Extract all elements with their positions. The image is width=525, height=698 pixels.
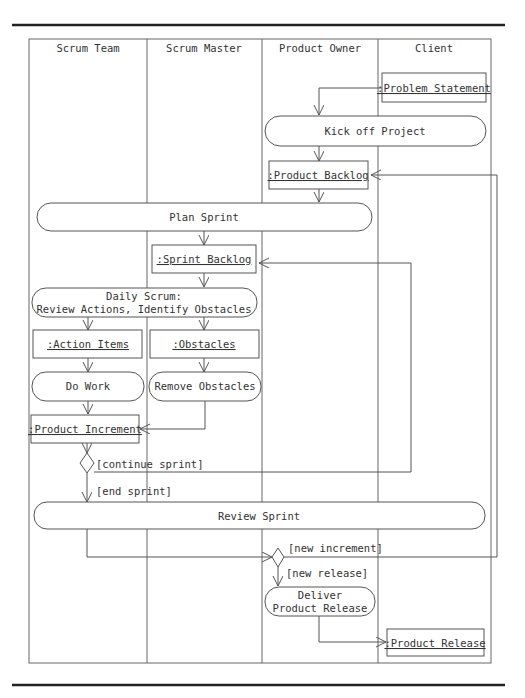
svg-text:Review Actions, Identify Obsta: Review Actions, Identify Obstacles [37,303,252,315]
lane-header-scrum-team: Scrum Team [56,42,119,54]
guard-continue-sprint: [continue sprint] [96,458,203,470]
flow-deliver-to-release [319,616,386,642]
svg-text:Do Work: Do Work [66,380,111,392]
activity-plan-sprint: Plan Sprint [37,203,372,231]
guard-end-sprint: [end sprint] [96,485,172,497]
activity-diagram: Scrum Team Scrum Master Product Owner Cl… [0,0,525,698]
decision-release [272,548,284,567]
svg-text:Remove Obstacles: Remove Obstacles [154,380,255,392]
object-action-items: :Action Items [33,330,142,358]
activity-daily-scrum: Daily Scrum: Review Actions, Identify Ob… [32,288,257,317]
flow-review-to-decision [87,529,272,557]
object-product-increment: :Product Increment [28,415,142,443]
activity-kick-off-project: Kick off Project [265,116,486,146]
guard-new-increment: [new increment] [288,542,383,554]
activity-deliver-product-release: Deliver Product Release [265,587,375,616]
svg-text:Review Sprint: Review Sprint [218,510,300,522]
svg-text::Product Backlog: :Product Backlog [267,169,368,181]
activity-remove-obstacles: Remove Obstacles [149,372,261,401]
object-product-release: :Product Release [384,629,485,656]
svg-text:Kick off Project: Kick off Project [324,125,425,137]
svg-text:Daily Scrum:: Daily Scrum: [106,290,182,302]
flow-new-increment [284,175,497,557]
svg-text::Action Items: :Action Items [47,338,129,350]
object-sprint-backlog: :Sprint Backlog [152,245,256,273]
svg-text:Plan Sprint: Plan Sprint [169,211,239,223]
svg-text:Deliver: Deliver [298,589,342,601]
activity-review-sprint: Review Sprint [34,502,485,529]
object-problem-statement: :Problem Statement [377,73,491,102]
svg-text:Product Release: Product Release [273,602,368,614]
guard-new-release: [new release] [286,567,368,579]
svg-text::Product Release: :Product Release [384,637,485,649]
activity-do-work: Do Work [32,372,144,401]
svg-text::Product Increment: :Product Increment [28,423,142,435]
lane-header-scrum-master: Scrum Master [166,42,242,54]
lane-header-product-owner: Product Owner [279,42,361,54]
lane-header-client: Client [415,42,453,54]
flow-problem-to-kickoff [319,88,382,115]
svg-text::Problem Statement: :Problem Statement [377,82,491,94]
svg-text::Sprint Backlog: :Sprint Backlog [157,253,252,265]
object-obstacles: :Obstacles [150,330,259,358]
svg-text::Obstacles: :Obstacles [172,338,235,350]
decision-sprint [80,453,94,473]
flow-remove-to-increment [140,401,205,429]
object-product-backlog: :Product Backlog [267,161,368,189]
